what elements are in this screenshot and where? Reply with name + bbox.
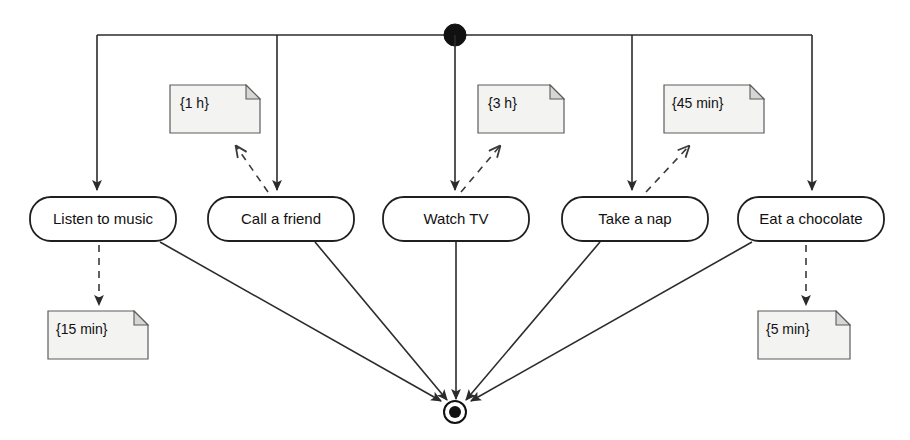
- activity-diagram-canvas: {1 h} {3 h} {45 min} {15 min} {5 min} Li…: [0, 0, 910, 440]
- flow-eat-a-chocolate-to-final[interactable]: [471, 242, 752, 401]
- note-1h[interactable]: {1 h}: [170, 85, 260, 133]
- anchor-1h[interactable]: [236, 146, 268, 192]
- final-node[interactable]: [444, 401, 466, 423]
- diagram-surface: {1 h} {3 h} {45 min} {15 min} {5 min} Li…: [0, 0, 910, 440]
- final-node-core: [449, 406, 461, 418]
- note-5min-label: {5 min}: [766, 321, 810, 337]
- activity-eat-a-chocolate-label: Eat a chocolate: [759, 210, 862, 227]
- activity-listen-to-music[interactable]: Listen to music: [30, 197, 176, 241]
- activity-call-a-friend-label: Call a friend: [241, 210, 321, 227]
- anchor-3h[interactable]: [461, 146, 500, 192]
- note-3h-label: {3 h}: [488, 95, 517, 111]
- activity-eat-a-chocolate[interactable]: Eat a chocolate: [738, 197, 884, 241]
- note-fold-icon: [246, 85, 260, 99]
- anchor-45min[interactable]: [646, 146, 689, 192]
- activity-call-a-friend[interactable]: Call a friend: [208, 197, 354, 241]
- note-fold-icon: [836, 311, 850, 325]
- note-1h-label: {1 h}: [180, 95, 209, 111]
- activity-listen-to-music-label: Listen to music: [53, 210, 154, 227]
- note-15min[interactable]: {15 min}: [48, 311, 148, 359]
- note-5min[interactable]: {5 min}: [758, 311, 850, 359]
- note-fold-icon: [550, 85, 564, 99]
- activity-watch-tv[interactable]: Watch TV: [383, 197, 529, 241]
- note-15min-label: {15 min}: [56, 321, 108, 337]
- note-45min[interactable]: {45 min}: [664, 85, 764, 133]
- note-3h[interactable]: {3 h}: [478, 85, 564, 133]
- activity-take-a-nap-label: Take a nap: [598, 210, 671, 227]
- outgoing-flows-group: [160, 242, 752, 401]
- note-fold-icon: [750, 85, 764, 99]
- activity-take-a-nap[interactable]: Take a nap: [562, 197, 708, 241]
- flow-take-a-nap-to-final[interactable]: [466, 242, 600, 400]
- activity-watch-tv-label: Watch TV: [423, 210, 488, 227]
- note-fold-icon: [134, 311, 148, 325]
- flow-listen-to-music-to-final[interactable]: [160, 242, 441, 401]
- flow-call-a-friend-to-final[interactable]: [315, 242, 447, 400]
- note-45min-label: {45 min}: [672, 95, 724, 111]
